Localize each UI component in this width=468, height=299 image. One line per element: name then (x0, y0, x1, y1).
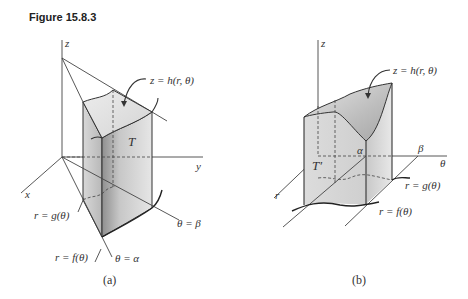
inner-curve-label-a: r = g(θ) (34, 209, 70, 222)
z-axis-label-b: z (320, 37, 326, 49)
r-axis-label-b: r (275, 189, 280, 201)
ray-alpha-label-a: θ = α (115, 252, 139, 264)
theta-axis-label-b: θ (440, 157, 446, 169)
caption-a: (a) (103, 273, 116, 287)
ray-beta-label-a: θ = β (177, 217, 201, 229)
y-axis-label-a: y (195, 160, 201, 172)
inner-curve-label-b: r = g(θ) (405, 179, 441, 192)
alpha-label-b: α (357, 144, 363, 156)
region-label-tprime: T′ (312, 158, 322, 173)
panel-a: z y x z = h(r, θ) T r = g(θ) r = f(θ) θ … (21, 37, 203, 287)
x-axis-label-a: x (24, 188, 30, 200)
surface-label-b: z = h(r, θ) (392, 64, 437, 77)
leader-f-a (95, 249, 101, 262)
surface-edge-ext-a (152, 98, 158, 112)
surface-label-a: z = h(r, θ) (149, 74, 194, 87)
region-label-t: T (128, 134, 136, 149)
outer-curve-label-b: r = f(θ) (379, 205, 412, 218)
panel-b: z θ r z = h(r, θ) T′ α β r = g(θ) r = f(… (274, 37, 447, 287)
leader-g-a (78, 198, 84, 212)
outer-curve-label-a: r = f(θ) (55, 251, 88, 264)
beta-label-b: β (417, 142, 424, 154)
z-axis-label-a: z (64, 37, 70, 49)
figure-canvas: z y x z = h(r, θ) T r = g(θ) r = f(θ) θ … (0, 0, 468, 299)
caption-b: (b) (352, 273, 366, 287)
